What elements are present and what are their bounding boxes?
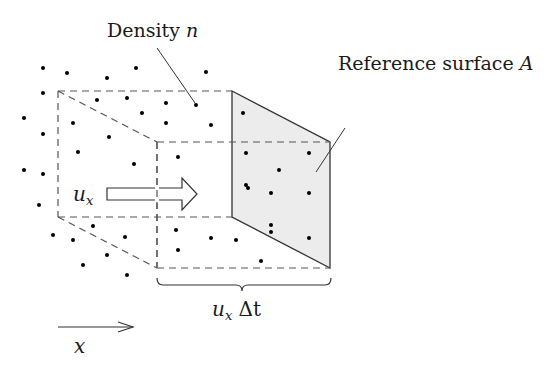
particle-dot xyxy=(164,121,168,125)
velocity-label: ux xyxy=(73,182,94,208)
particle-dot xyxy=(41,172,45,176)
density-label: Density n xyxy=(107,19,198,41)
particle-dot xyxy=(176,155,180,159)
particle-dot xyxy=(164,101,168,105)
velocity-arrow-icon xyxy=(107,178,197,210)
particle-dot xyxy=(51,233,55,237)
particle-dot xyxy=(140,111,144,115)
particle-dot xyxy=(37,203,41,207)
particle-dot xyxy=(105,253,109,257)
particle-dot xyxy=(174,228,178,232)
particle-dot xyxy=(259,259,263,263)
displacement-label: ux Δt xyxy=(212,297,261,323)
density-leader-line xyxy=(157,48,195,103)
particle-dot xyxy=(269,230,273,234)
particle-dot xyxy=(95,98,99,102)
particle-dot xyxy=(234,238,238,242)
particle-dot xyxy=(244,151,248,155)
particle-dot xyxy=(307,151,311,155)
particle-dot xyxy=(71,238,75,242)
particle-dot xyxy=(41,91,45,95)
particle-dot xyxy=(132,162,136,166)
particle-dot xyxy=(125,273,129,277)
particle-dot xyxy=(176,248,180,252)
particle-dot xyxy=(194,103,198,107)
particle-dot xyxy=(204,70,208,74)
particle-dot xyxy=(81,263,85,267)
x-axis-arrow-icon xyxy=(58,322,133,332)
particle-dot xyxy=(241,111,245,115)
particle-dot xyxy=(107,135,111,139)
particle-dot xyxy=(41,132,45,136)
particle-dot xyxy=(123,235,127,239)
particle-dot xyxy=(277,168,281,172)
particle-dot xyxy=(65,71,69,75)
particle-dot xyxy=(307,236,311,240)
reference-surface xyxy=(232,91,330,268)
particle-dot xyxy=(22,168,26,172)
particle-dot xyxy=(76,150,80,154)
particle-dot xyxy=(269,223,273,227)
particle-dot xyxy=(41,66,45,70)
particle-dot xyxy=(125,96,129,100)
particle-dot xyxy=(209,236,213,240)
x-axis-label: x xyxy=(74,334,85,358)
particle-dot xyxy=(71,121,75,125)
reference-surface-label: Reference surface A xyxy=(338,52,533,74)
particle-dot xyxy=(307,191,311,195)
particle-dot xyxy=(134,66,138,70)
particle-dot xyxy=(246,186,250,190)
particle-dot xyxy=(105,76,109,80)
particle-dot xyxy=(22,116,26,120)
particle-dot xyxy=(269,191,273,195)
particle-dot xyxy=(91,224,95,228)
particle-dot xyxy=(209,123,213,127)
particle-flux-diagram: Density n Reference surface A ux ux Δt x xyxy=(0,0,552,370)
displacement-brace xyxy=(157,278,331,291)
